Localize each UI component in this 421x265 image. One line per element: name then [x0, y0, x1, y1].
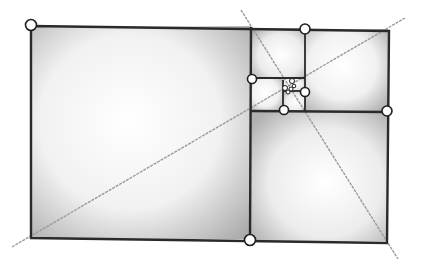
golden-rectangle-diagram — [0, 0, 421, 265]
right-bottom-square — [251, 111, 387, 241]
upper-left-square — [251, 28, 305, 78]
node-tiny-1 — [290, 79, 295, 84]
right-top-square — [305, 29, 388, 111]
node-top-left — [26, 20, 37, 31]
large-square — [31, 26, 251, 239]
edge-line — [250, 27, 251, 240]
node-tiny-5 — [292, 84, 296, 88]
node-bottom-mid — [245, 235, 256, 246]
node-inner-right — [301, 88, 310, 97]
small-square-a — [251, 78, 283, 111]
node-left-mid — [248, 75, 257, 84]
edge-line — [251, 111, 387, 112]
node-tiny-4 — [286, 90, 290, 94]
node-inner-bottom — [280, 106, 289, 115]
diagram-canvas — [0, 0, 421, 265]
node-tiny-2 — [283, 86, 288, 91]
node-right-mid — [382, 106, 392, 116]
square-fills — [31, 26, 388, 241]
node-top-mid — [300, 24, 310, 34]
